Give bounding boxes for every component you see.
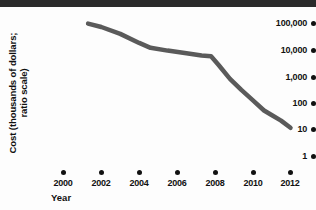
x-tick-dot-2010 bbox=[251, 170, 256, 175]
y-tick-dot bbox=[311, 101, 316, 106]
y-tick-label: 100 bbox=[293, 98, 307, 108]
x-tick-dot-2012 bbox=[288, 170, 293, 175]
y-tick-10: 10 bbox=[242, 123, 316, 135]
x-tick-dot-2004 bbox=[137, 170, 142, 175]
y-tick-dot bbox=[311, 127, 316, 132]
y-tick-10000: 10,000 bbox=[242, 44, 316, 56]
y-tick-100000: 100,000 bbox=[242, 17, 316, 29]
x-tick-label-2010: 2010 bbox=[233, 178, 273, 188]
y-tick-label: 10 bbox=[297, 124, 307, 134]
x-tick-dot-2002 bbox=[99, 170, 104, 175]
y-tick-dot bbox=[311, 154, 316, 159]
y-tick-100: 100 bbox=[242, 97, 316, 109]
x-tick-dot-2000 bbox=[61, 170, 66, 175]
x-tick-label-2006: 2006 bbox=[157, 178, 197, 188]
x-tick-dot-2006 bbox=[175, 170, 180, 175]
x-tick-label-2004: 2004 bbox=[119, 178, 159, 188]
y-tick-label: 100,000 bbox=[276, 18, 307, 28]
x-tick-label-2008: 2008 bbox=[195, 178, 235, 188]
x-tick-label-2012: 2012 bbox=[270, 178, 310, 188]
y-tick-1: 1 bbox=[242, 150, 316, 162]
y-axis-title: Cost (thousands of dollars; ratio scale) bbox=[7, 18, 29, 168]
x-tick-label-2002: 2002 bbox=[81, 178, 121, 188]
line-chart: Cost (thousands of dollars; ratio scale)… bbox=[0, 0, 316, 210]
y-tick-1000: 1,000 bbox=[242, 71, 316, 83]
x-axis-title: Year bbox=[51, 192, 71, 203]
y-axis-title-line-1: Cost (thousands of dollars; bbox=[7, 18, 18, 168]
y-tick-dot bbox=[311, 21, 316, 26]
x-tick-dot-2008 bbox=[213, 170, 218, 175]
y-axis-title-line-2: ratio scale) bbox=[18, 18, 29, 168]
y-tick-label: 1,000 bbox=[285, 72, 307, 82]
y-tick-dot bbox=[311, 48, 316, 53]
y-tick-label: 10,000 bbox=[281, 45, 307, 55]
x-tick-label-2000: 2000 bbox=[43, 178, 83, 188]
y-tick-dot bbox=[311, 75, 316, 80]
y-tick-label: 1 bbox=[302, 151, 307, 161]
